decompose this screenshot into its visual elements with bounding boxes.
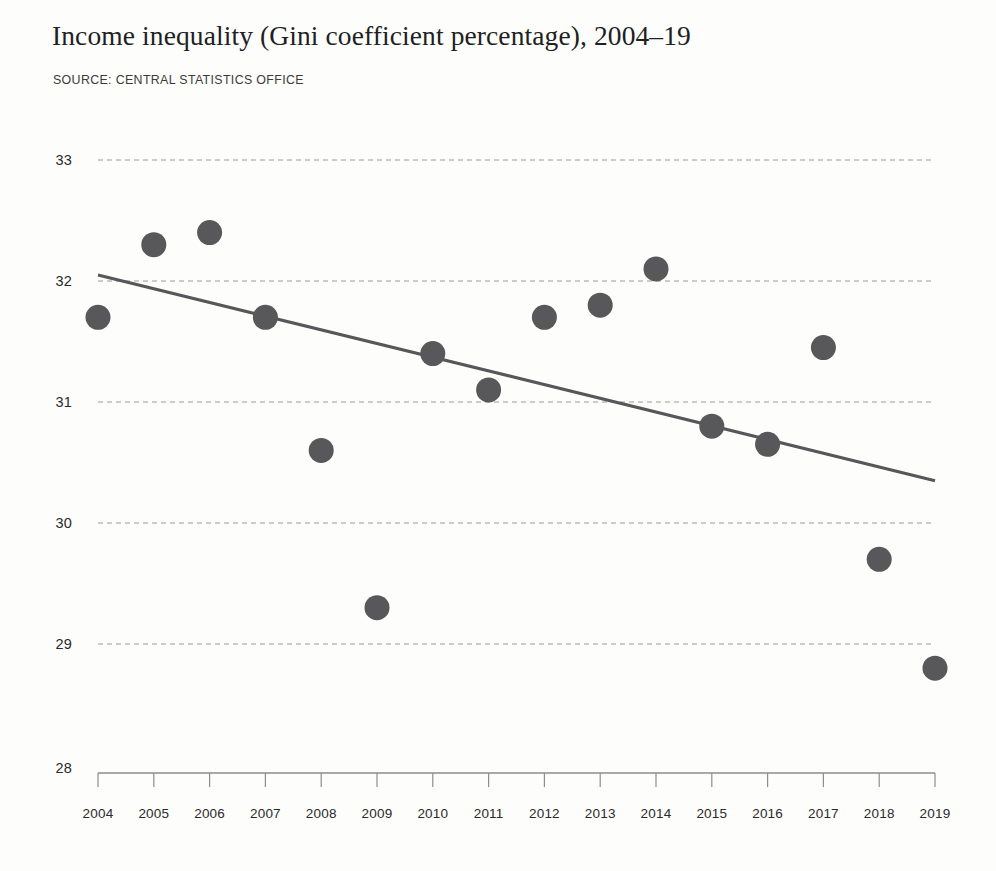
data-point[interactable] — [141, 232, 166, 257]
x-axis-tick-label: 2016 — [752, 806, 783, 821]
x-axis-tick-label: 2012 — [529, 806, 560, 821]
x-axis-tick-label: 2004 — [83, 806, 114, 821]
data-point[interactable] — [365, 595, 390, 620]
gridlines — [98, 160, 935, 644]
data-point[interactable] — [253, 305, 278, 330]
y-axis-tick-label: 33 — [55, 152, 72, 168]
y-axis-tick-label: 28 — [55, 760, 72, 776]
data-point[interactable] — [588, 293, 613, 318]
x-axis-tick-label: 2018 — [864, 806, 895, 821]
data-point[interactable] — [476, 377, 501, 402]
x-axis-tick-label: 2006 — [194, 806, 225, 821]
x-axis-labels: 2004200520062007200820092010201120122013… — [83, 806, 951, 821]
x-axis-tick-label: 2013 — [585, 806, 616, 821]
x-axis-tick-label: 2011 — [474, 806, 504, 821]
x-axis-tick-label: 2008 — [306, 806, 337, 821]
chart-page: Income inequality (Gini coefficient perc… — [0, 0, 996, 871]
scatter-plot-svg: 333231302928 200420052006200720082009201… — [0, 0, 996, 871]
x-axis-tick-label: 2019 — [920, 806, 951, 821]
x-axis-tick-label: 2007 — [250, 806, 281, 821]
data-point[interactable] — [923, 656, 948, 681]
y-axis-labels: 333231302928 — [55, 152, 72, 776]
data-point[interactable] — [197, 220, 222, 245]
y-axis-tick-label: 30 — [55, 515, 72, 531]
x-axis-tick-label: 2015 — [696, 806, 727, 821]
plot-area: 333231302928 200420052006200720082009201… — [0, 0, 996, 871]
x-axis-tickmarks — [98, 773, 935, 787]
data-point[interactable] — [811, 335, 836, 360]
x-axis-tick-label: 2014 — [641, 806, 672, 821]
data-point[interactable] — [699, 414, 724, 439]
data-point[interactable] — [755, 432, 780, 457]
x-axis-tick-label: 2017 — [808, 806, 839, 821]
trend-line — [98, 275, 935, 481]
data-point[interactable] — [644, 256, 669, 281]
data-point[interactable] — [420, 341, 445, 366]
x-axis-tick-label: 2009 — [362, 806, 393, 821]
data-point[interactable] — [86, 305, 111, 330]
x-axis-tick-label: 2005 — [138, 806, 169, 821]
x-axis-tick-label: 2010 — [417, 806, 448, 821]
data-point[interactable] — [532, 305, 557, 330]
y-axis-tick-label: 32 — [55, 273, 72, 289]
data-point[interactable] — [309, 438, 334, 463]
y-axis-tick-label: 31 — [55, 394, 72, 410]
y-axis-tick-label: 29 — [55, 636, 72, 652]
data-point[interactable] — [867, 547, 892, 572]
